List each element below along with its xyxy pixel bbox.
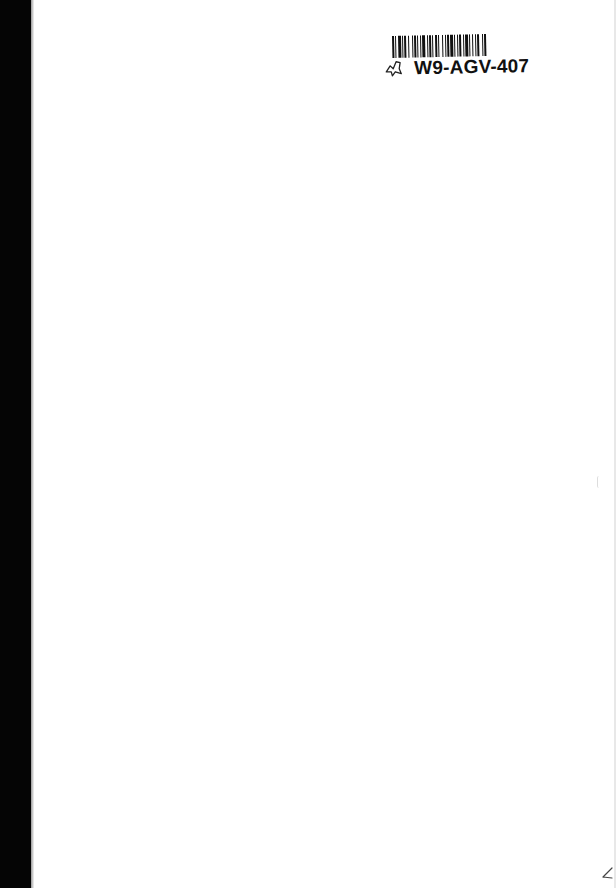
scanned-page: W9-AGV-407 <box>0 0 616 888</box>
pencil-check-mark-icon <box>600 866 614 880</box>
library-sticker: W9-AGV-407 <box>384 55 529 80</box>
paper-smudge <box>597 476 602 488</box>
barcode-code-label: W9-AGV-407 <box>414 55 529 79</box>
binding-spine <box>0 0 31 888</box>
barcode-gap <box>486 34 487 56</box>
handwritten-leaf-mark-icon <box>384 60 404 78</box>
spine-shadow <box>31 0 34 888</box>
